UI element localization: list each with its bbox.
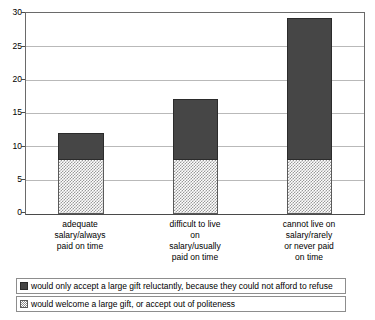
- x-label-line: adequate: [25, 219, 135, 230]
- y-tick-label: 30: [0, 8, 22, 17]
- x-label-line: salary/always: [25, 230, 135, 241]
- bar-segment-welcome: [58, 160, 104, 214]
- bar-segment-welcome: [173, 160, 218, 214]
- bar-segment-reluctant: [58, 133, 104, 160]
- x-label-cannot-live: cannot live on salary/rarely or never pa…: [254, 219, 364, 263]
- x-axis-labels: adequate salary/always paid on time diff…: [25, 219, 365, 269]
- x-label-line: on: [140, 230, 250, 241]
- bar-cannot-live: [287, 18, 332, 214]
- legend-swatch-light-icon: [20, 300, 28, 308]
- bar-difficult-to-live: [173, 99, 218, 214]
- y-tick-label: 0: [0, 208, 22, 217]
- bar-segment-welcome: [287, 160, 332, 214]
- x-label-line: salary/rarely: [254, 230, 364, 241]
- y-tick-label: 15: [0, 108, 22, 117]
- y-tick-label: 25: [0, 42, 22, 51]
- x-label-line: salary/usually: [140, 241, 250, 252]
- legend-label: would welcome a large gift, or accept ou…: [31, 300, 235, 309]
- x-label-line: cannot live on: [254, 219, 364, 230]
- legend-item-reluctant: would only accept a large gift reluctant…: [16, 278, 346, 294]
- plot-area: [25, 12, 365, 215]
- x-label-adequate-salary: adequate salary/always paid on time: [25, 219, 135, 252]
- y-tick-label: 10: [0, 142, 22, 151]
- legend-label: would only accept a large gift reluctant…: [31, 282, 333, 291]
- legend-swatch-dark-icon: [20, 282, 28, 290]
- bar-segment-reluctant: [287, 18, 332, 160]
- bar-adequate-salary: [58, 133, 104, 214]
- x-label-line: or never paid: [254, 241, 364, 252]
- bar-segment-reluctant: [173, 99, 218, 160]
- x-label-difficult-to-live: difficult to live on salary/usually paid…: [140, 219, 250, 263]
- legend-item-welcome: would welcome a large gift, or accept ou…: [16, 296, 346, 312]
- y-tick-label: 20: [0, 75, 22, 84]
- x-label-line: on time: [254, 252, 364, 263]
- y-tick-label: 5: [0, 175, 22, 184]
- x-label-line: paid on time: [25, 241, 135, 252]
- x-label-line: paid on time: [140, 252, 250, 263]
- x-label-line: difficult to live: [140, 219, 250, 230]
- bar-chart: 30 25 20 15 10 5 0: [0, 0, 375, 320]
